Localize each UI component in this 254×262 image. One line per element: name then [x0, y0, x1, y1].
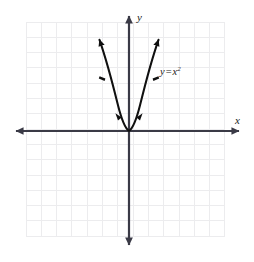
equation-lhs: y — [160, 66, 165, 77]
graph-figure: y x y=x2 — [0, 0, 254, 262]
coordinate-plane-svg — [0, 0, 254, 262]
y-axis-label: y — [137, 12, 142, 23]
curve-equation-label: y=x2 — [160, 67, 181, 78]
equation-equals-sign: = — [165, 66, 173, 77]
equation-exponent: 2 — [177, 65, 181, 73]
grid-lines — [26, 22, 225, 237]
tick-right-branch — [153, 76, 160, 81]
x-axis-label: x — [235, 115, 240, 126]
